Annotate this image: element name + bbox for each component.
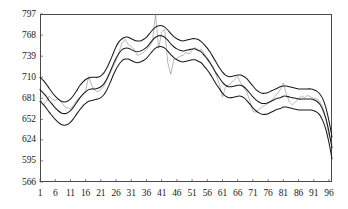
chart-figure: 797768739710681652624595566 161116212631…: [0, 0, 348, 209]
x-axis-labels: 16111621263136414651566166717681869196: [0, 0, 348, 209]
x-tick-label: 96: [319, 189, 339, 199]
